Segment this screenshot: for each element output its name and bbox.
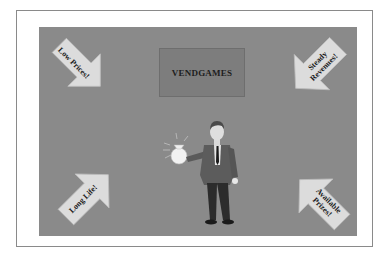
title-box: VENDGAMES — [159, 48, 245, 97]
arrow-low-prices: Low Prices! — [42, 28, 112, 98]
arrow-steady-revenues: Steady Revenues! — [284, 30, 354, 100]
businessman-holding-money-bag-icon — [160, 115, 260, 230]
title-text: VENDGAMES — [172, 68, 232, 78]
businessman-figure — [160, 115, 260, 230]
arrow-available-prizes: Available Prizes! — [288, 168, 358, 238]
arrow-long-life: Long Life! — [50, 163, 120, 233]
